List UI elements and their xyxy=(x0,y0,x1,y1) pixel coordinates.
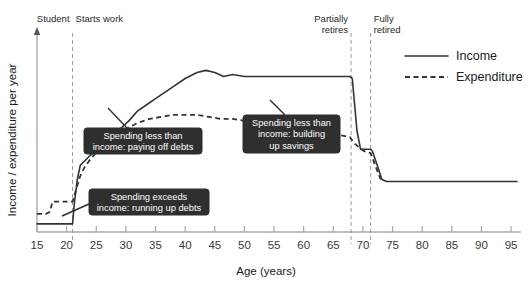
event-marker-label: retired xyxy=(374,24,401,35)
x-axis-title: Age (years) xyxy=(236,265,296,277)
annotation-text-line: income: running up debts xyxy=(97,203,202,213)
x-tick-label: 60 xyxy=(297,239,310,251)
legend-label-income: Income xyxy=(456,49,497,63)
x-tick-label: 75 xyxy=(386,239,399,251)
annotation-text-line: income: building xyxy=(258,129,325,139)
event-marker-label: Starts work xyxy=(76,13,124,24)
annotation-leader-line xyxy=(108,108,127,128)
income-expenditure-lifecycle-chart: 1520253035404550556065707580859095 Stude… xyxy=(0,0,529,285)
x-tick-label: 50 xyxy=(238,239,251,251)
x-tick-label: 40 xyxy=(179,239,192,251)
event-marker-labels: StudentStarts workPartiallyretiresFullyr… xyxy=(37,13,401,35)
annotation-text-line: income: paying off debts xyxy=(93,142,194,152)
x-tick-label: 70 xyxy=(357,239,370,251)
x-tick-label: 90 xyxy=(475,239,488,251)
x-tick-label: 30 xyxy=(119,239,132,251)
annotation-text-line: Spending less than xyxy=(103,131,182,141)
annotation-callout: Spending less thanincome: buildingup sav… xyxy=(243,100,340,153)
x-tick-label: 80 xyxy=(416,239,429,251)
event-marker-label: Fully xyxy=(374,13,394,24)
annotation-callout: Spending exceedsincome: running up debts xyxy=(62,189,209,216)
y-axis-arrowhead xyxy=(34,27,40,35)
annotation-text-line: Spending exceeds xyxy=(111,192,188,202)
x-tick-label: 55 xyxy=(268,239,281,251)
x-tick-label: 85 xyxy=(445,239,458,251)
x-tick-label: 65 xyxy=(327,239,340,251)
event-marker-label: Partially xyxy=(314,13,348,24)
annotation-text-line: Spending less than xyxy=(252,118,331,128)
legend-label-expenditure: Expenditure xyxy=(456,70,523,84)
x-axis-ticks: 1520253035404550556065707580859095 xyxy=(31,226,518,251)
x-tick-label: 25 xyxy=(90,239,103,251)
x-tick-label: 95 xyxy=(505,239,518,251)
annotation-callouts: Spending less thanincome: paying off deb… xyxy=(62,100,340,216)
x-tick-label: 35 xyxy=(149,239,162,251)
chart-canvas: 1520253035404550556065707580859095 Stude… xyxy=(0,0,529,285)
event-marker-label: Student xyxy=(37,13,70,24)
annotation-leader-line xyxy=(270,100,285,115)
event-marker-label: retires xyxy=(322,24,349,35)
legend: Income Expenditure xyxy=(405,49,523,84)
annotation-leader-line xyxy=(62,204,89,216)
x-tick-label: 45 xyxy=(208,239,221,251)
x-tick-label: 15 xyxy=(31,239,44,251)
annotation-text-line: up savings xyxy=(269,141,314,151)
x-tick-label: 20 xyxy=(60,239,73,251)
y-axis-title: Income / expenditure per year xyxy=(6,63,18,216)
